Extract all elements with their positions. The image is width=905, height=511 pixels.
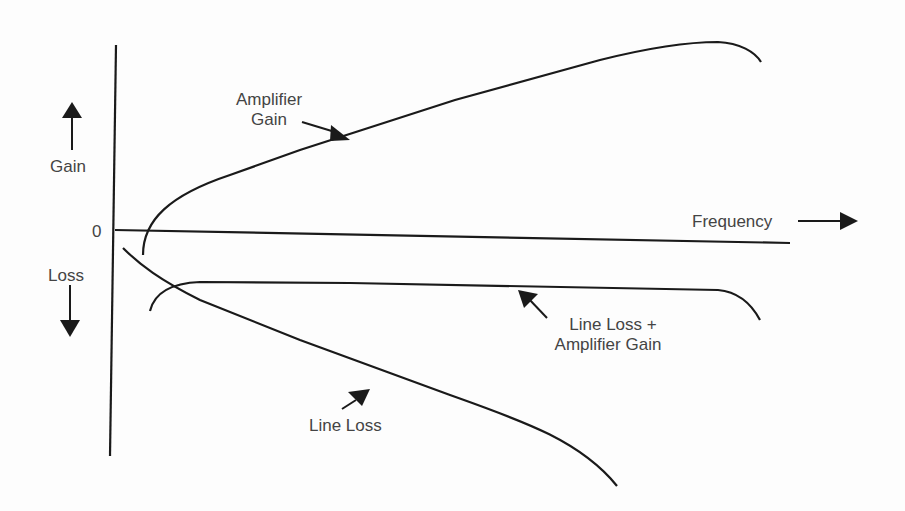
x-axis-zero-line xyxy=(115,230,790,243)
amplifier-gain-curve xyxy=(143,42,761,255)
amplifier-gain-label: Amplifier Gain xyxy=(228,90,310,130)
gain-arrow-head xyxy=(62,102,82,118)
loss-label: Loss xyxy=(48,266,84,286)
line-loss-pointer-line xyxy=(342,400,356,409)
frequency-arrow-head xyxy=(840,212,858,230)
amplifier-gain-pointer-head xyxy=(330,125,350,141)
combined-label-line-2: Amplifier Gain xyxy=(540,335,676,355)
gain-label: Gain xyxy=(50,157,86,177)
zero-label: 0 xyxy=(92,222,101,242)
combined-label-line-1: Line Loss + xyxy=(540,315,676,335)
combined-label: Line Loss + Amplifier Gain xyxy=(540,315,676,355)
loss-arrow-head xyxy=(60,320,80,337)
amplifier-gain-label-line-1: Amplifier xyxy=(228,90,310,110)
amplifier-gain-label-line-2: Gain xyxy=(228,110,310,130)
line-loss-label: Line Loss xyxy=(309,416,382,436)
y-axis xyxy=(110,45,116,456)
gain-loss-diagram xyxy=(0,0,905,511)
frequency-label: Frequency xyxy=(692,212,772,232)
